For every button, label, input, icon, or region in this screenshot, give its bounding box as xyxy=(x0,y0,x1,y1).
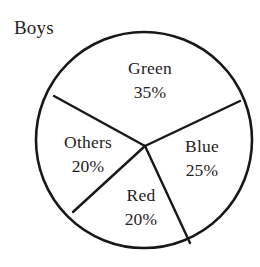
slice-label-blue: Blue xyxy=(185,136,219,156)
slice-value-others: 20% xyxy=(72,156,105,176)
slice-value-green: 35% xyxy=(134,82,167,102)
slice-value-blue: 25% xyxy=(186,160,219,180)
slice-label-red: Red xyxy=(127,185,156,205)
slice-value-red: 20% xyxy=(125,209,158,229)
pie-chart-svg: Green 35% Blue 25% Red 20% Others 20% xyxy=(0,0,260,267)
slice-label-green: Green xyxy=(128,58,172,78)
pie-chart-figure: Boys Green 35% Blue 25% Red 20% Others 2… xyxy=(0,0,260,267)
slice-label-others: Others xyxy=(64,132,112,152)
